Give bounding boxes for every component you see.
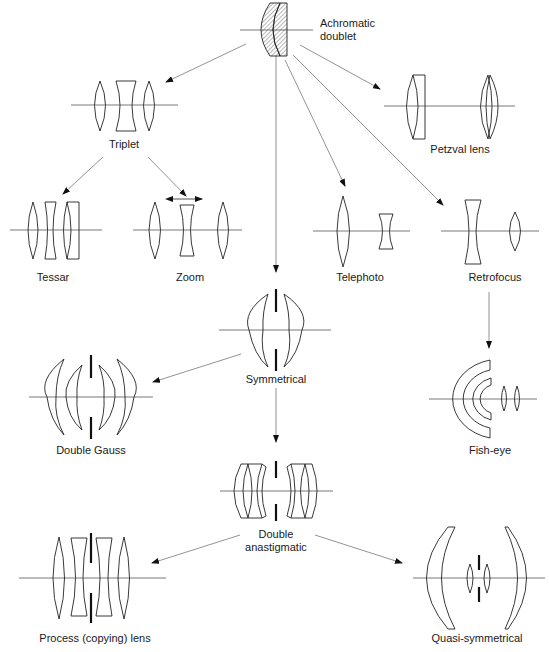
fisheye-label: Fish-eye (455, 444, 525, 457)
petzval-lens (384, 75, 515, 139)
triplet-label: Triplet (94, 138, 154, 151)
process-lens-label: Process (copying) lens (20, 632, 170, 645)
telephoto-lens (313, 196, 410, 267)
double-anastigmatic-label-line1: Double (221, 528, 331, 541)
process-lens (19, 533, 166, 623)
double-anastigmatic-lens (220, 461, 333, 521)
quasi-symmetrical-lens (413, 527, 545, 629)
achromatic-doublet-lens (240, 3, 313, 56)
double-gauss-lens (29, 355, 153, 439)
retrofocus-lens (441, 200, 539, 264)
lens-family-diagram: Achromatic doublet Triplet Petzval lens … (0, 0, 549, 652)
zoom-label: Zoom (160, 271, 220, 284)
double-anastigmatic-label-line2: anastigmatic (221, 541, 331, 554)
symmetrical-lens (219, 289, 331, 371)
achromatic-doublet-label: Achromatic doublet (320, 17, 375, 43)
symmetrical-label: Symmetrical (231, 373, 321, 386)
triplet-lens (71, 81, 178, 131)
achromatic-label-line2: doublet (320, 30, 375, 43)
retrofocus-label: Retrofocus (455, 271, 535, 284)
tessar-label: Tessar (18, 271, 88, 284)
achromatic-label-line1: Achromatic (320, 17, 375, 30)
double-anastigmatic-label: Double anastigmatic (221, 528, 331, 554)
zoom-lens (133, 199, 242, 259)
fisheye-lens (429, 360, 537, 438)
diagram-svg (0, 0, 549, 652)
double-gauss-label: Double Gauss (36, 444, 146, 457)
tessar-lens (10, 202, 102, 259)
quasi-symmetrical-label: Quasi-symmetrical (412, 632, 542, 645)
petzval-label: Petzval lens (410, 143, 510, 156)
telephoto-label: Telephoto (320, 271, 400, 284)
